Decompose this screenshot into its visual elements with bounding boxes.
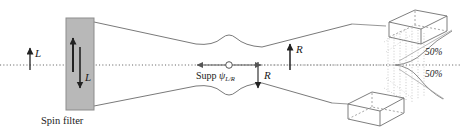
label-R-down: R <box>264 70 271 81</box>
label-support: Supp ψL/R <box>196 71 235 82</box>
support-center-marker <box>226 62 233 69</box>
label-L-down: L <box>85 72 91 83</box>
label-probability-lower: 50% <box>425 70 442 80</box>
connector-upper-cube <box>352 24 386 26</box>
beam-envelope-upper-left <box>94 22 352 47</box>
support-prefix-text: Supp <box>196 70 217 81</box>
lower-detector-cube <box>348 92 404 126</box>
label-L-up: L <box>35 48 41 59</box>
label-probability-upper: 50% <box>425 48 442 58</box>
support-psi-subscript: L/R <box>225 75 235 82</box>
split-curve-upper <box>395 31 452 65</box>
spin-filter-diagram: L L R R Supp ψL/R 50% 50% Spin filter <box>0 0 462 135</box>
label-R-up: R <box>296 44 303 55</box>
caption-spin-filter: Spin filter <box>41 116 83 127</box>
connector-lower-cube <box>332 103 348 104</box>
beam-envelope-lower-left <box>94 83 332 106</box>
